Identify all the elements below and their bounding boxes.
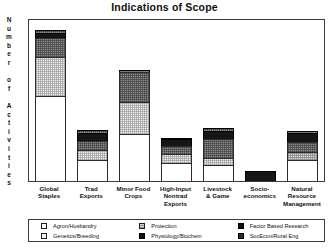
chart-title: Indications of Scope [0,1,329,13]
legend-item-physiology-biochem[interactable]: Physiology/Biochem [127,231,225,241]
legend-item-factor-based-research[interactable]: Factor Based Research [226,221,324,231]
x-tick-label-line: Exports [70,192,112,199]
bar-segment-factor [77,133,108,141]
x-tick-label-line: economics [239,192,281,199]
x-axis-tick-labels: GlobalStaplesTradExportsMinor FoodCropsH… [28,185,325,215]
legend-label: Factor Based Research [250,223,309,230]
bar-socio-economics[interactable] [245,171,276,181]
x-tick-label-line: Staples [28,192,70,199]
bar-segment-agron [119,134,150,181]
x-tick-label-line: & Game [197,192,239,199]
y-axis-label-char: c [7,111,11,120]
legend-item-protection[interactable]: Protection [127,221,225,231]
bar-segment-factor [203,131,234,139]
legend-swatch-icon [41,233,47,239]
legend-label: Agron/Husbandry [53,223,97,230]
y-axis-label-char [8,93,10,102]
bar-global-staples[interactable] [35,30,66,181]
legend-row-top: Agron/HusbandryProtectionFactor Based Re… [29,221,324,231]
x-tick-label-5: Socio-economics [239,185,281,200]
x-tick-label-line: High-Input [154,185,196,192]
x-tick-label-1: TradExports [70,185,112,200]
y-axis-label-char: i [8,162,10,171]
y-axis-label-char: t [8,154,10,163]
y-axis-label-char: N [7,16,12,25]
legend-swatch-icon [238,233,244,239]
bar-segment-physio [287,142,318,152]
bar-segment-agron [35,96,66,181]
x-tick-label-line: Exports [154,200,196,207]
legend-label: Genetics/Breeding [53,233,99,240]
bar-segment-genetics [77,150,108,160]
bar-segment-physio [119,72,150,103]
legend-swatch-icon [41,223,47,229]
bar-segment-physio [77,141,108,151]
chart-legend: Agron/HusbandryProtectionFactor Based Re… [28,219,325,242]
legend-label: Protection [151,223,176,230]
legend-label: SocEcon/Rural Eng [250,233,299,240]
x-tick-label-line: Livestock [197,185,239,192]
bar-segment-agron [287,160,318,181]
bar-segment-agron [161,163,192,181]
legend-item-socecon-rural-eng[interactable]: SocEcon/Rural Eng [226,231,324,241]
x-tick-label-line: Minor Food [112,185,154,192]
y-axis-label-char: i [8,128,10,137]
bar-segment-physio [203,139,234,158]
y-axis-label-char: t [8,119,10,128]
legend-item-genetics-breeding[interactable]: Genetics/Breeding [29,231,127,241]
y-axis-label-char: e [7,50,11,59]
y-axis-label-char: i [8,145,10,154]
bar-high-input-nontrad-exports[interactable] [161,138,192,181]
x-tick-label-line: Resource [281,192,323,199]
x-tick-label-2: Minor FoodCrops [112,185,154,200]
legend-label: Physiology/Biochem [151,233,201,240]
bar-segment-genetics [35,57,66,96]
bar-segment-agron [77,160,108,181]
legend-swatch-icon [139,223,145,229]
y-axis-label-char [8,68,10,77]
x-tick-label-3: High-InputNontradExports [154,185,196,207]
bar-livestock-game[interactable] [203,128,234,181]
legend-swatch-icon [139,233,145,239]
bar-trad-exports[interactable] [77,129,108,181]
y-axis-label-char: o [7,76,11,85]
bar-segment-genetics [161,154,192,164]
y-axis-label-char: u [7,25,11,34]
chart-root: Indications of Scope Number of Activitie… [0,0,329,250]
y-axis-label-char: r [8,59,11,68]
x-tick-label-line: Nontrad [154,192,196,199]
x-tick-label-line: Natural [281,185,323,192]
y-axis-label-char: m [6,33,12,42]
bar-segment-protection [287,152,318,160]
bar-segment-factor [245,171,276,181]
legend-swatch-icon [238,223,244,229]
bar-segment-physio [35,38,66,57]
legend-row-bottom: Genetics/BreedingPhysiology/BiochemSocEc… [29,231,324,241]
plot-frame [28,19,325,182]
y-axis-label-char: b [7,42,11,51]
y-axis-label-char: A [7,102,12,111]
bar-segment-physio [161,146,192,154]
bar-segment-genetics [119,102,150,134]
x-tick-label-6: NaturalResourceManagement [281,185,323,207]
bar-segment-agron [203,165,234,181]
bar-segment-factor [287,133,318,143]
x-tick-label-line: Socio- [239,185,281,192]
y-axis-label-char: e [7,171,11,180]
x-tick-label-line: Trad [70,185,112,192]
y-axis-label-char: f [8,85,10,94]
y-axis-label: Number of Activities [3,21,15,183]
x-tick-label-0: GlobalStaples [28,185,70,200]
legend-item-agron-husbandry[interactable]: Agron/Husbandry [29,221,127,231]
x-tick-label-line: Global [28,185,70,192]
bar-natural-resource-management[interactable] [287,131,318,181]
x-tick-label-line: Management [281,200,323,207]
x-tick-label-line: Crops [112,192,154,199]
y-axis-label-char: v [7,136,11,145]
y-axis-label-char: s [7,179,11,188]
x-tick-label-4: Livestock& Game [197,185,239,200]
bar-minor-food-crops[interactable] [119,70,150,181]
plot-area [29,20,324,181]
